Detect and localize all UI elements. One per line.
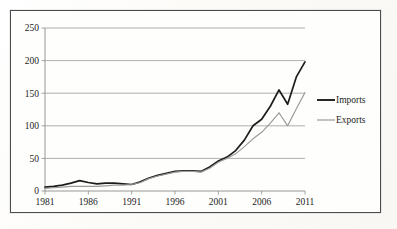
legend-label-imports: Imports xyxy=(336,95,366,105)
chart-frame: 050100150200250 198119861991199620012006… xyxy=(10,10,381,213)
x-tick-label-2006: 2006 xyxy=(252,197,271,207)
axes xyxy=(45,28,305,191)
series-line-exports xyxy=(45,93,305,189)
chart-screenshot: 050100150200250 198119861991199620012006… xyxy=(0,0,397,229)
data-series xyxy=(45,62,305,188)
y-tick-label-100: 100 xyxy=(25,121,40,131)
legend-label-exports: Exports xyxy=(336,115,366,125)
y-tick-label-200: 200 xyxy=(25,56,40,66)
y-axis-labels: 050100150200250 xyxy=(25,23,40,196)
x-tick-label-1996: 1996 xyxy=(166,197,185,207)
y-tick-label-250: 250 xyxy=(25,23,40,33)
tick-marks xyxy=(42,28,306,195)
x-tick-label-1981: 1981 xyxy=(36,197,55,207)
x-tick-label-1986: 1986 xyxy=(79,197,98,207)
legend-item-exports: Exports xyxy=(317,115,366,125)
x-tick-label-1991: 1991 xyxy=(122,197,141,207)
y-tick-label-0: 0 xyxy=(34,186,39,196)
chart-legend: ImportsExports xyxy=(317,95,366,125)
x-tick-label-2011: 2011 xyxy=(296,197,315,207)
y-tick-label-50: 50 xyxy=(30,154,40,164)
y-tick-label-150: 150 xyxy=(25,89,40,99)
x-axis-labels: 1981198619911996200120062011 xyxy=(36,197,315,207)
x-tick-label-2001: 2001 xyxy=(209,197,228,207)
legend-item-imports: Imports xyxy=(317,95,366,105)
line-chart: 050100150200250 198119861991199620012006… xyxy=(11,11,380,212)
series-line-imports xyxy=(45,62,305,187)
gridlines xyxy=(45,28,305,158)
